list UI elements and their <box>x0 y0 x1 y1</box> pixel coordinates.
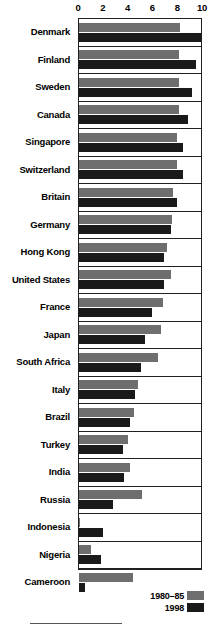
category-label-text: Russia <box>40 494 70 505</box>
bar-1998 <box>79 33 201 42</box>
category-label: Denmark <box>0 18 74 46</box>
category-label-text: Canada <box>37 109 70 120</box>
bar-row <box>79 514 201 542</box>
bar-row <box>79 349 201 377</box>
x-axis-tick-labels: 0246810 <box>78 2 202 16</box>
bar-row <box>79 47 201 75</box>
category-label-text: Britain <box>41 191 70 202</box>
category-axis-labels: DenmarkFinlandSwedenCanadaSingaporeSwitz… <box>0 18 74 570</box>
category-label-text: United States <box>12 274 70 285</box>
category-label: Brazil <box>0 403 74 431</box>
bar-1980-85 <box>79 105 179 114</box>
category-label-text: Italy <box>52 384 70 395</box>
category-label: Indonesia <box>0 513 74 541</box>
bar-1998 <box>79 225 171 234</box>
bar-1998 <box>79 418 130 427</box>
bar-row <box>79 74 201 102</box>
bar-1980-85 <box>79 545 91 554</box>
x-axis-tick-6: 6 <box>150 2 155 14</box>
bar-1998 <box>79 115 188 124</box>
bar-1980-85 <box>79 463 130 472</box>
bar-1998 <box>79 335 145 344</box>
category-label: Singapore <box>0 128 74 156</box>
category-label: India <box>0 458 74 486</box>
category-label-text: Cameroon <box>25 576 70 587</box>
bar-1998 <box>79 473 124 482</box>
bar-1980-85 <box>79 133 177 142</box>
bar-row <box>79 102 201 130</box>
category-label-text: Denmark <box>31 26 70 37</box>
bar-1998 <box>79 390 135 399</box>
bar-1980-85 <box>79 243 167 252</box>
category-label-text: Germany <box>30 219 70 230</box>
category-label-text: Sweden <box>35 81 70 92</box>
category-label-text: Indonesia <box>27 521 70 532</box>
category-label: South Africa <box>0 348 74 376</box>
x-axis-tick-2: 2 <box>100 2 105 14</box>
bar-row <box>79 459 201 487</box>
category-label: Nigeria <box>0 541 74 569</box>
category-label-text: Japan <box>44 329 70 340</box>
bar-1980-85 <box>79 298 163 307</box>
legend-label: 1980–85 <box>150 591 184 601</box>
bar-1998 <box>79 363 141 372</box>
x-axis-tick-8: 8 <box>175 2 180 14</box>
category-label-text: Finland <box>38 54 70 65</box>
bar-1980-85 <box>79 490 142 499</box>
category-label-text: Nigeria <box>39 549 70 560</box>
bar-1980-85 <box>79 78 179 87</box>
bar-row <box>79 377 201 405</box>
bar-1980-85 <box>79 353 158 362</box>
chart-legend: 1980–851998 <box>112 590 204 614</box>
bar-1980-85 <box>79 215 172 224</box>
bar-1998 <box>79 253 164 262</box>
bar-1980-85 <box>79 408 134 417</box>
bar-1980-85 <box>79 270 171 279</box>
bar-1998 <box>79 198 177 207</box>
bar-1998 <box>79 445 123 454</box>
bar-row <box>79 404 201 432</box>
bar-row <box>79 19 201 47</box>
bar-1980-85 <box>79 325 161 334</box>
footer-divider <box>30 623 122 624</box>
category-label: Finland <box>0 46 74 74</box>
bar-row <box>79 184 201 212</box>
category-label: Cameroon <box>0 568 74 596</box>
category-label: France <box>0 293 74 321</box>
bar-row <box>79 322 201 350</box>
bar-1980-85 <box>79 160 177 169</box>
bar-1980-85 <box>79 380 138 389</box>
category-label: Russia <box>0 486 74 514</box>
bar-1998 <box>79 60 196 69</box>
bar-1980-85 <box>79 573 133 582</box>
x-axis-tick-0: 0 <box>75 2 80 14</box>
bar-row <box>79 294 201 322</box>
legend-swatch-old <box>187 591 204 600</box>
x-axis-tick-4: 4 <box>125 2 130 14</box>
bar-row <box>79 432 201 460</box>
category-label-text: South Africa <box>16 356 70 367</box>
legend-entry: 1998 <box>112 602 204 613</box>
category-label: Hong Kong <box>0 238 74 266</box>
bar-1998 <box>79 528 103 537</box>
category-label: United States <box>0 266 74 294</box>
bar-1998 <box>79 308 152 317</box>
bar-1998 <box>79 555 101 564</box>
category-label-text: Turkey <box>41 439 70 450</box>
bar-row <box>79 267 201 295</box>
bar-1998 <box>79 583 85 592</box>
bar-1980-85 <box>79 23 180 32</box>
bar-rows <box>79 19 201 569</box>
bar-1998 <box>79 143 183 152</box>
bar-row <box>79 157 201 185</box>
plot-area <box>78 18 202 570</box>
category-label-text: Switzerland <box>19 164 70 175</box>
bar-1998 <box>79 280 164 289</box>
bar-1980-85 <box>79 188 173 197</box>
category-label-text: Singapore <box>25 136 70 147</box>
horizontal-bar-chart: 0246810 DenmarkFinlandSwedenCanadaSingap… <box>0 0 214 632</box>
bar-1980-85 <box>79 435 128 444</box>
bar-1998 <box>79 88 192 97</box>
category-label-text: Hong Kong <box>21 246 70 257</box>
category-label: Canada <box>0 101 74 129</box>
